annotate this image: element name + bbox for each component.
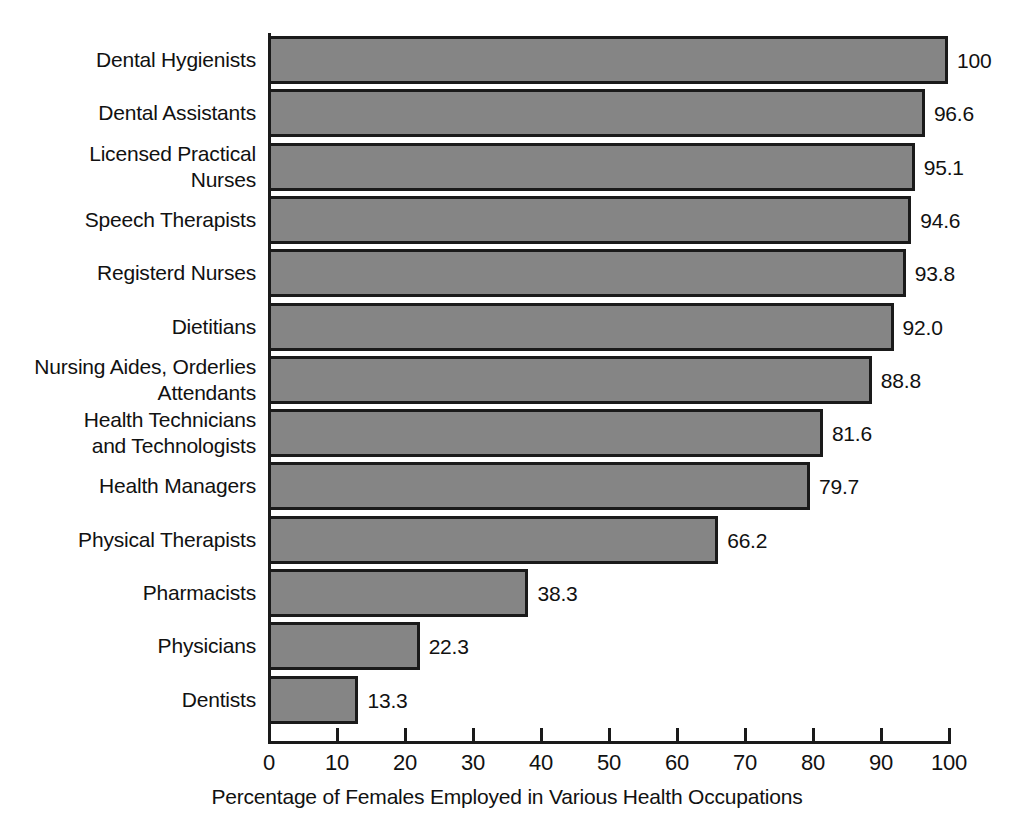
category-label: Dentists	[0, 676, 256, 724]
bar-value-label: 92.0	[903, 316, 943, 337]
category-label: Physicians	[0, 622, 256, 670]
bar-value-label: 93.8	[915, 263, 955, 284]
x-axis-tick-label: 50	[597, 750, 621, 776]
bar-value-label: 81.6	[832, 423, 872, 444]
bar	[268, 516, 718, 564]
bar	[268, 196, 911, 244]
x-axis-tick	[268, 728, 271, 742]
category-label-line: Dietitians	[172, 314, 256, 340]
x-axis-title: Percentage of Females Employed in Variou…	[0, 784, 1014, 810]
category-label: Pharmacists	[0, 569, 256, 617]
x-axis-tick	[404, 728, 407, 742]
category-label-line: Dental Assistants	[98, 100, 256, 126]
bar	[268, 303, 894, 351]
category-label-line: Physical Therapists	[78, 527, 256, 553]
category-label: Dental Assistants	[0, 89, 256, 137]
bar-value-label: 96.6	[934, 103, 974, 124]
bar-value-label: 88.8	[881, 369, 921, 390]
x-axis-tick	[540, 728, 543, 742]
category-label: Dietitians	[0, 303, 256, 351]
category-label-line: Dentists	[182, 687, 256, 713]
category-label-line: Attendants	[158, 380, 256, 406]
x-axis-tick-label: 40	[529, 750, 553, 776]
bar-value-label: 79.7	[819, 476, 859, 497]
category-label-line: Physicians	[158, 633, 256, 659]
x-axis-tick	[948, 728, 951, 742]
bar-value-label: 100	[957, 50, 991, 71]
x-axis-tick-label: 80	[801, 750, 825, 776]
category-label: Physical Therapists	[0, 516, 256, 564]
bar-value-label: 38.3	[537, 583, 577, 604]
bar-chart: 10096.695.194.693.892.088.881.679.766.23…	[0, 0, 1014, 824]
bar	[268, 462, 810, 510]
x-axis-tick-label: 60	[665, 750, 689, 776]
category-label: Dental Hygienists	[0, 36, 256, 84]
x-axis-tick-label: 20	[393, 750, 417, 776]
bar-value-label: 13.3	[367, 689, 407, 710]
category-label-line: Licensed Practical	[89, 141, 256, 167]
category-label-line: and Technologists	[92, 433, 256, 459]
category-label: Speech Therapists	[0, 196, 256, 244]
category-label-line: Health Managers	[99, 473, 256, 499]
category-label: Health Techniciansand Technologists	[0, 409, 256, 457]
category-label-line: Nursing Aides, Orderlies	[34, 354, 256, 380]
x-axis-tick	[336, 728, 339, 742]
category-label-line: Dental Hygienists	[96, 47, 256, 73]
category-label-line: Pharmacists	[143, 580, 256, 606]
category-label-line: Health Technicians	[84, 407, 256, 433]
bar-value-label: 22.3	[429, 636, 469, 657]
bar	[268, 356, 872, 404]
x-axis-tick-label: 70	[733, 750, 757, 776]
bar	[268, 569, 528, 617]
bar-value-label: 95.1	[924, 156, 964, 177]
bar-value-label: 66.2	[727, 529, 767, 550]
bar	[268, 249, 906, 297]
category-label-line: Registerd Nurses	[97, 260, 256, 286]
x-axis-tick-label: 0	[263, 750, 275, 776]
category-label: Nursing Aides, OrderliesAttendants	[0, 356, 256, 404]
x-axis-tick	[608, 728, 611, 742]
x-axis-tick	[676, 728, 679, 742]
bar	[268, 89, 925, 137]
category-label-line: Nurses	[191, 167, 256, 193]
bar	[268, 622, 420, 670]
category-label-line: Speech Therapists	[85, 207, 256, 233]
bar	[268, 143, 915, 191]
x-axis-tick-label: 10	[325, 750, 349, 776]
x-axis-tick	[812, 728, 815, 742]
x-axis-tick-label: 100	[931, 750, 967, 776]
x-axis-tick	[472, 728, 475, 742]
x-axis-tick-label: 30	[461, 750, 485, 776]
bar	[268, 36, 948, 84]
x-axis-tick	[880, 728, 883, 742]
category-label: Licensed PracticalNurses	[0, 143, 256, 191]
x-axis-tick	[744, 728, 747, 742]
category-label: Health Managers	[0, 462, 256, 510]
bar	[268, 676, 358, 724]
x-axis-tick-label: 90	[869, 750, 893, 776]
bar-value-label: 94.6	[920, 209, 960, 230]
bar	[268, 409, 823, 457]
category-label: Registerd Nurses	[0, 249, 256, 297]
